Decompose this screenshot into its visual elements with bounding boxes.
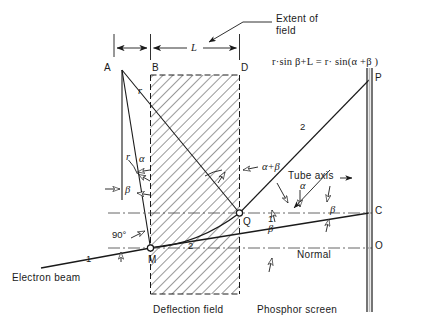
extent-of-field-leader <box>209 22 272 42</box>
point-label-o: O <box>375 240 383 253</box>
angle-label-alpha-left: α <box>139 152 145 165</box>
ray-number-inside: 2 <box>188 240 193 252</box>
radius-label-upper: r <box>138 84 142 97</box>
extent-of-field-label-line1: Extent of <box>276 13 318 26</box>
tube-axis-label: Tube axis <box>288 170 334 183</box>
phosphor-screen-label: Phosphor screen <box>257 304 337 317</box>
dimension-line-extent <box>114 34 240 60</box>
phosphor-screen <box>367 68 372 312</box>
ray-number-emergent-lower: 1 <box>268 213 273 225</box>
deflection-field-label: Deflection field <box>153 304 223 317</box>
point-label-m: M <box>148 254 156 267</box>
angle-label-beta-left: β <box>125 183 130 196</box>
deflection-field-region <box>151 75 240 294</box>
incident-beam-ray <box>41 248 151 268</box>
point-label-p: P <box>375 72 382 85</box>
normal-label: Normal <box>297 249 331 262</box>
deflection-formula: r·sin β+L = r· sin(α +β ) <box>272 55 378 68</box>
angle-label-beta-right: β <box>330 203 335 216</box>
point-label-a: A <box>104 62 111 75</box>
point-label-q: Q <box>243 216 251 229</box>
dimension-label-L: L <box>191 41 197 54</box>
ray-number-incident: 1 <box>86 253 91 265</box>
diagram-canvas: Extent of field L r·sin β+L = r· sin(α +… <box>0 0 428 334</box>
point-label-d: D <box>241 62 248 75</box>
extent-of-field-label-line2: field <box>276 25 296 38</box>
right-angle-label: 90° <box>112 229 126 241</box>
angle-label-alpha-plus-beta: α+β <box>262 160 280 173</box>
radius-label-lower: r <box>126 150 130 163</box>
electron-beam-label: Electron beam <box>12 272 80 285</box>
point-label-b: B <box>152 62 159 75</box>
ray-number-emergent-upper: 2 <box>300 121 305 133</box>
point-label-c: C <box>375 205 382 218</box>
